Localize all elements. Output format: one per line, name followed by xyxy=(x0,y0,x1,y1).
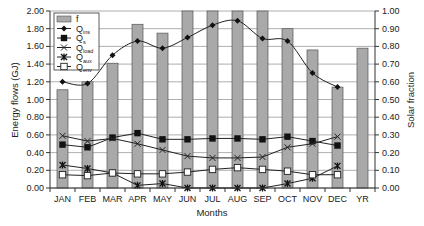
svg-text:aux: aux xyxy=(83,58,92,64)
marker-filled-square xyxy=(284,133,290,139)
y-tick-label: 1.00 xyxy=(26,95,44,105)
marker-filled-square xyxy=(234,135,240,141)
marker-filled-square xyxy=(59,141,65,147)
energy-flow-lines xyxy=(59,18,340,192)
y-tick-label: 1.60 xyxy=(26,41,44,51)
x-tick-label: FEB xyxy=(79,194,97,204)
marker-filled-square xyxy=(134,130,140,136)
marker-open-square xyxy=(309,172,315,178)
svg-text:Q: Q xyxy=(76,33,83,43)
x-tick-label: AUG xyxy=(228,194,248,204)
marker-open-square xyxy=(61,63,67,69)
y-tick-label: 0.00 xyxy=(26,183,44,193)
series-q-aux xyxy=(60,161,341,191)
svg-text:load: load xyxy=(83,48,93,54)
x-tick-label: MAY xyxy=(153,194,172,204)
series-q-s xyxy=(59,130,340,151)
marker-filled-square xyxy=(159,136,165,142)
bar-oct xyxy=(282,29,293,188)
marker-filled-square xyxy=(109,134,115,140)
marker-open-square xyxy=(109,170,115,176)
x-tick-label: JUL xyxy=(204,194,220,204)
bar-mar xyxy=(107,63,118,188)
y2-tick-label: 0.90 xyxy=(382,24,400,34)
y-tick-label: 0.40 xyxy=(26,148,44,158)
bar-may xyxy=(157,33,168,188)
marker-open-square xyxy=(84,172,90,178)
marker-open-square xyxy=(209,166,215,172)
y2-tick-label: 0.30 xyxy=(382,130,400,140)
y-tick-label: 1.80 xyxy=(26,24,44,34)
energy-flows-chart: 0.000.200.400.600.801.001.201.401.601.80… xyxy=(0,0,424,226)
y2-tick-label: 0.40 xyxy=(382,112,400,122)
marker-open-square xyxy=(234,164,240,170)
marker-diamond xyxy=(60,79,66,85)
series-q-env xyxy=(59,164,340,178)
x-tick-label: APR xyxy=(128,194,147,204)
y2-tick-label: 0.10 xyxy=(382,165,400,175)
bar-yr xyxy=(357,48,368,188)
series-q-load xyxy=(60,133,341,161)
bar-aug xyxy=(232,11,243,188)
marker-filled-square xyxy=(84,144,90,150)
y2-axis-title: Solar fraction xyxy=(405,72,416,128)
x-tick-label: NOV xyxy=(303,194,323,204)
svg-text:ins: ins xyxy=(83,29,90,35)
y2-tick-label: 0.60 xyxy=(382,77,400,87)
y-tick-label: 2.00 xyxy=(26,6,44,16)
marker-open-square xyxy=(334,172,340,178)
svg-text:s: s xyxy=(83,39,86,45)
marker-filled-square xyxy=(259,136,265,142)
x-axis-title: Months xyxy=(196,207,227,218)
y-axis-title: Energy flows (GJ) xyxy=(9,62,20,138)
marker-filled-square xyxy=(184,136,190,142)
marker-filled-square xyxy=(61,35,67,41)
svg-text:Q: Q xyxy=(76,52,83,62)
x-tick-label: JAN xyxy=(54,194,71,204)
y2-tick-label: 0.80 xyxy=(382,41,400,51)
y2-tick-label: 1.00 xyxy=(382,6,400,16)
y-tick-label: 0.60 xyxy=(26,130,44,140)
y-tick-label: 0.20 xyxy=(26,165,44,175)
y2-tick-label: 0.50 xyxy=(382,95,400,105)
x-tick-label: SEP xyxy=(253,194,271,204)
x-tick-label: DEC xyxy=(328,194,348,204)
x-tick-label: JUN xyxy=(179,194,197,204)
svg-text:Q: Q xyxy=(76,24,83,34)
bar-apr xyxy=(132,24,143,188)
bar-jul xyxy=(207,11,218,188)
y-tick-label: 1.20 xyxy=(26,77,44,87)
marker-filled-square xyxy=(209,135,215,141)
y2-tick-label: 0.70 xyxy=(382,59,400,69)
y2-tick-label: 0.20 xyxy=(382,148,400,158)
marker-open-square xyxy=(259,166,265,172)
marker-open-square xyxy=(184,169,190,175)
y2-tick-label: 0.00 xyxy=(382,183,400,193)
x-tick-label: MAR xyxy=(103,194,124,204)
marker-open-square xyxy=(59,172,65,178)
svg-text:Q: Q xyxy=(76,62,83,72)
y-tick-label: 0.80 xyxy=(26,112,44,122)
svg-text:Q: Q xyxy=(76,43,83,53)
x-tick-label: YR xyxy=(356,194,369,204)
y-tick-label: 1.40 xyxy=(26,59,44,69)
marker-open-square xyxy=(159,171,165,177)
marker-open-square xyxy=(284,168,290,174)
marker-open-square xyxy=(134,171,140,177)
marker-filled-square xyxy=(334,142,340,148)
x-tick-label: OCT xyxy=(278,194,298,204)
svg-text:env: env xyxy=(83,67,92,73)
legend: fQinsQsQloadQauxQenv xyxy=(54,13,99,73)
